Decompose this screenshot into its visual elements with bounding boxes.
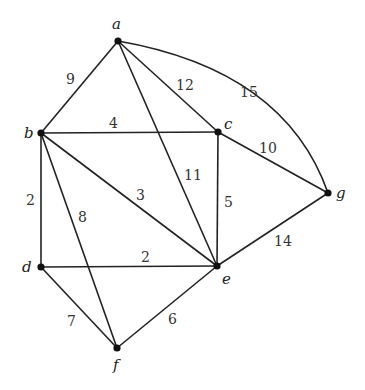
edge-weight-b-c: 4 [109,115,118,131]
edge-weight-b-f: 8 [78,209,87,225]
node-label-a: a [112,15,121,33]
node-c [214,128,221,135]
edge-weight-d-e: 2 [141,249,150,265]
edge-weight-c-e: 5 [224,194,233,210]
edge-b-e [41,133,217,266]
edge-f-e [117,266,217,348]
edge-weight-a-e: 11 [184,167,202,183]
edge-weight-a-g: 15 [240,84,258,100]
weighted-graph-diagram: 9412151131052827614 abcdefg [0,0,365,390]
node-a [114,37,121,44]
edge-weight-e-g: 14 [274,233,292,249]
node-label-e: e [222,270,231,288]
node-label-g: g [336,184,346,202]
edge-e-g [217,193,328,266]
edge-weight-a-b: 9 [66,71,75,87]
node-f [113,344,120,351]
edge-weight-b-e: 3 [136,187,145,203]
node-b [37,129,44,136]
edge-a-e [118,41,217,266]
edge-a-b [41,41,118,133]
edge-weights-group: 9412151131052827614 [26,71,292,329]
edge-weight-a-c: 12 [176,77,194,93]
edge-c-e [217,132,218,266]
node-label-d: d [22,258,32,276]
edge-weight-d-f: 7 [67,313,76,329]
edge-a-c [118,41,218,132]
node-label-c: c [224,115,233,133]
edge-d-f [41,267,117,348]
node-label-b: b [24,124,34,142]
node-d [37,263,44,270]
edge-b-f [41,133,117,348]
edge-weight-f-e: 6 [168,311,177,327]
edge-weight-c-g: 10 [259,140,277,156]
edge-weight-b-d: 2 [26,192,35,208]
edge-b-c [41,132,218,133]
edge-a-g [118,41,328,193]
node-e [213,262,220,269]
edge-d-e [41,266,217,267]
node-label-f: f [112,356,121,374]
node-g [324,189,331,196]
